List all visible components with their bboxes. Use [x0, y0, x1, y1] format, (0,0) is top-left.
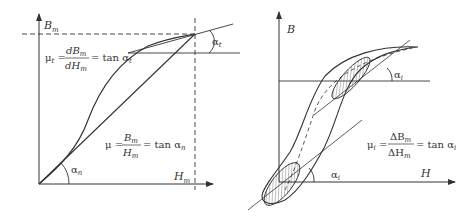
- formula-static-permeability: μ = Bm Hm = tan αn: [105, 132, 186, 160]
- svg-text:= tan αt: = tan αt: [91, 52, 132, 65]
- alpha-i-top-label: αi: [394, 69, 403, 82]
- formula-incremental-permeability: μi = ΔBm ΔHm = tan αi: [367, 131, 456, 160]
- upper-minor-loop: [327, 53, 375, 104]
- svg-text:= tan αn: = tan αn: [143, 139, 186, 152]
- svg-text:Bm: Bm: [123, 132, 138, 145]
- lower-tangent-line: [248, 120, 362, 210]
- left-y-axis-label: Bm: [43, 19, 59, 34]
- svg-text:dBm: dBm: [66, 45, 87, 58]
- svg-text:ΔHm: ΔHm: [388, 147, 411, 160]
- svg-text:Hm: Hm: [122, 147, 139, 160]
- alpha-n-label: αn: [71, 164, 83, 177]
- right-diagram: B H αi αi μi = ΔBm ΔHm = tan αi: [248, 12, 456, 211]
- svg-text:dHm: dHm: [65, 60, 87, 73]
- svg-text:= tan αi: = tan αi: [416, 139, 456, 152]
- svg-text:μ =: μ =: [105, 139, 123, 150]
- right-x-axis-label: H: [420, 167, 431, 180]
- left-diagram: Bm Hm αt αn μt = dBm dHm = tan αt: [22, 14, 240, 190]
- svg-text:μt =: μt =: [45, 52, 66, 65]
- alpha-i-top-arc: [387, 68, 392, 81]
- lower-minor-loop: [258, 157, 306, 210]
- left-x-axis-label: Hm: [173, 170, 191, 185]
- svg-text:μi =: μi =: [367, 139, 387, 152]
- right-y-axis-label: B: [286, 23, 295, 36]
- alpha-i-bottom-label: αi: [331, 169, 340, 182]
- alpha-n-arc: [61, 163, 69, 184]
- svg-text:ΔBm: ΔBm: [390, 131, 412, 144]
- diagram-canvas: Bm Hm αt αn μt = dBm dHm = tan αt: [0, 0, 475, 212]
